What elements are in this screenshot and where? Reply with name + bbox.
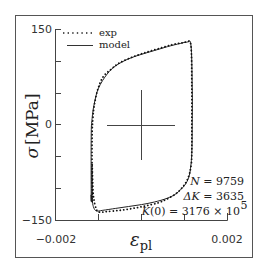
y-tick-label-neg150: −150 bbox=[22, 214, 52, 227]
sigma-symbol: σ bbox=[22, 147, 42, 159]
legend: exp model bbox=[63, 27, 130, 50]
annotation-k0: K(0) = 3176 × 10 bbox=[141, 205, 240, 218]
legend-model-label: model bbox=[99, 39, 130, 50]
origin-crosshair bbox=[107, 90, 175, 160]
hysteresis-chart: 150 0 −150 −0.002 0.002 σ[MPa] εpl exp m… bbox=[0, 0, 262, 272]
legend-exp-label: exp bbox=[99, 27, 117, 38]
annotation-k0-exponent: 5 bbox=[241, 199, 248, 212]
annotation-n: N = 9759 bbox=[189, 175, 244, 188]
y-axis-label: σ[MPa] bbox=[22, 93, 42, 158]
y-tick-label-150: 150 bbox=[31, 23, 52, 36]
y-tick-label-0: 0 bbox=[45, 118, 52, 131]
annotation-block: N = 9759 ΔK = 3635 K(0) = 3176 × 10 5 bbox=[141, 175, 248, 218]
svg-text:σ[MPa]: σ[MPa] bbox=[22, 93, 42, 158]
annotation-delta-k: ΔK = 3635 bbox=[183, 190, 244, 203]
x-tick-label-0002: 0.002 bbox=[211, 233, 243, 246]
x-tick-label-neg0002: −0.002 bbox=[36, 233, 77, 246]
x-axis-label: εpl bbox=[130, 229, 152, 253]
unit-label: [MPa] bbox=[22, 93, 42, 144]
